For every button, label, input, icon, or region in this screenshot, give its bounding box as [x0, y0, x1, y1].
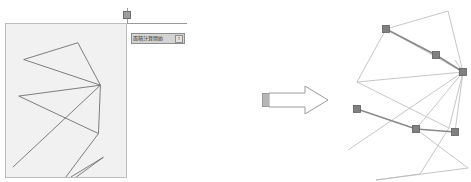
diagram-vertex-3[interactable] [460, 69, 467, 76]
diagram-vertex-5[interactable] [413, 126, 420, 133]
polygon-seg-7 [13, 85, 101, 167]
result-diagram-svg [330, 8, 470, 182]
transform-arrow-icon [269, 86, 329, 114]
chevron-down-icon[interactable]: ↕ [175, 35, 183, 43]
resize-handle[interactable] [123, 11, 131, 19]
screenshot-root: 面積計算開始 ↕ [0, 0, 471, 182]
command-combobox[interactable]: 面積計算開始 ↕ [131, 33, 185, 44]
diagram-faint-1 [386, 11, 448, 29]
polygon-seg-8 [53, 134, 98, 177]
polygon-seg-4 [98, 85, 100, 133]
guide-line-horizontal [127, 23, 187, 24]
diagram-faint-4 [357, 29, 386, 82]
polygon-seg-6 [19, 85, 101, 96]
transform-arrow-svg [269, 86, 329, 114]
diagram-faint-15 [455, 72, 463, 132]
polygon-canvas-svg [6, 24, 126, 177]
diagram-faint-2 [448, 11, 463, 72]
diagram-vertex-6[interactable] [452, 129, 459, 136]
polygon-seg-10 [71, 157, 103, 177]
diagram-vertex-1[interactable] [383, 26, 390, 33]
polygon-seg-5 [19, 96, 99, 134]
diagram-hl-2 [436, 55, 463, 72]
diagram-faint-13 [416, 129, 468, 168]
diagram-hl-4 [416, 129, 455, 132]
diagram-vertex-2[interactable] [433, 52, 440, 59]
diagram-faint-5 [357, 82, 449, 128]
diagram-hl-1 [386, 29, 436, 55]
result-diagram[interactable] [330, 8, 470, 182]
arrow-shape [269, 86, 328, 114]
diagram-faint-12 [357, 72, 463, 82]
command-combobox-value: 面積計算開始 [133, 34, 175, 43]
diagram-hl-3 [357, 109, 416, 129]
polygon-canvas[interactable] [5, 23, 127, 178]
diagram-faint-9 [376, 168, 468, 180]
diagram-vertex-4[interactable] [354, 106, 361, 113]
polygon-seg-1 [24, 43, 78, 60]
